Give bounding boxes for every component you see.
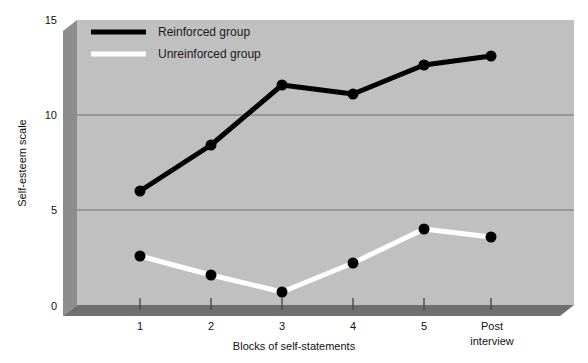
data-point-unreinforced-4 (348, 258, 359, 269)
ytick-label-15: 15 (45, 14, 57, 26)
legend-label-unreinforced: Unreinforced group (158, 47, 261, 61)
data-point-unreinforced-1 (135, 251, 146, 262)
data-point-reinforced-6 (486, 51, 497, 62)
data-point-unreinforced-2 (206, 270, 217, 281)
legend-label-reinforced: Reinforced group (158, 25, 250, 39)
data-point-reinforced-2 (206, 140, 217, 151)
data-point-unreinforced-5 (419, 224, 430, 235)
xtick-label-3: 3 (279, 320, 285, 332)
xtick-label-4: 4 (350, 320, 356, 332)
ytick-label-10: 10 (45, 109, 57, 121)
y-axis-title: Self-esteem scale (16, 119, 28, 206)
xtick-label-5: 5 (421, 320, 427, 332)
plot-left-wall (63, 20, 77, 316)
data-point-reinforced-5 (419, 60, 430, 71)
line-chart: Reinforced group Unreinforced group 15 1… (0, 0, 588, 363)
data-point-reinforced-3 (277, 80, 288, 91)
ytick-label-0: 0 (51, 300, 57, 312)
data-point-unreinforced-3 (277, 287, 288, 298)
xtick-label-post-line2: interview (470, 335, 513, 347)
data-point-reinforced-1 (135, 186, 146, 197)
chart-figure: Reinforced group Unreinforced group 15 1… (0, 0, 588, 363)
ytick-label-5: 5 (51, 204, 57, 216)
xtick-label-2: 2 (208, 320, 214, 332)
xtick-label-1: 1 (137, 320, 143, 332)
xtick-label-post-line1: Post (481, 320, 503, 332)
plot-area-background (77, 20, 574, 305)
data-point-reinforced-4 (348, 89, 359, 100)
x-axis-title: Blocks of self-statements (233, 340, 356, 352)
data-point-unreinforced-6 (486, 232, 497, 243)
